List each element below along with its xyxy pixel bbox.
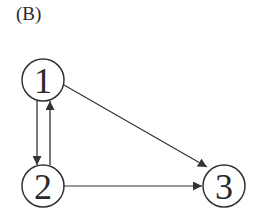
node-3: 3 (203, 165, 245, 207)
node-2-label: 2 (34, 167, 52, 207)
node-1-label: 1 (34, 61, 52, 101)
node-1: 1 (22, 59, 64, 101)
directed-graph: 1 2 3 (0, 0, 262, 224)
node-2: 2 (22, 165, 64, 207)
node-3-label: 3 (215, 167, 233, 207)
edge-1-to-3 (64, 85, 207, 167)
